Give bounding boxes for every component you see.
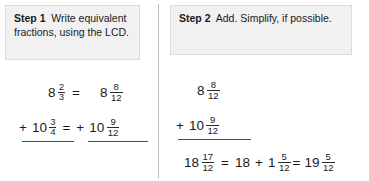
left-row-2-first-term: 10 3 4: [32, 118, 58, 138]
step-1-panel: Step 1 Write equivalent fractions, using…: [0, 0, 158, 181]
right-row-2-term: 10 9 12: [189, 115, 220, 136]
left-row-2-second-term: 10 9 12: [89, 117, 120, 138]
left-row-1-fraction: 2 3: [57, 83, 66, 103]
left-row-1: 8 2 3 = 8 8 12: [48, 82, 124, 103]
left-row-1-whole: 8: [48, 86, 56, 100]
left-row-2-plus: +: [19, 121, 27, 135]
result-equals-1: =: [221, 156, 229, 170]
result-part-whole: 18: [235, 156, 250, 170]
step-2-panel: Step 2 Add. Simplify, if possible. 8 8 1…: [158, 0, 369, 181]
right-row-2-whole: 10: [189, 119, 204, 133]
left-sum-rule-2: [88, 141, 148, 142]
right-sum-rule: [178, 139, 251, 140]
result-mixed-fraction: 5 12: [277, 152, 292, 173]
result-final-fraction: 5 12: [321, 152, 336, 173]
result-mixed-term: 1 5 12: [268, 152, 292, 173]
left-sum-rule-1: [22, 141, 74, 142]
right-row-2: + 10 9 12: [176, 115, 220, 136]
right-row-2-plus: +: [176, 119, 184, 133]
result-equals-2: =: [293, 156, 301, 170]
right-row-1-term: 8 8 12: [197, 80, 221, 101]
result-sum-fraction: 17 12: [201, 152, 216, 173]
left-row-2-fraction: 3 4: [48, 118, 57, 138]
left-row-2-result-fraction: 9 12: [106, 117, 121, 138]
left-row-1-result-whole: 8: [100, 86, 108, 100]
step-2-text: Add. Simplify, if possible.: [216, 12, 332, 24]
right-result-row: 18 17 12 = 18 + 1 5 12 = 19 5 12: [184, 152, 336, 173]
right-row-2-fraction: 9 12: [205, 115, 220, 136]
left-row-2-equals: =: [62, 121, 70, 135]
result-sum-whole: 18: [184, 156, 199, 170]
result-sum-term: 18 17 12: [184, 152, 215, 173]
step-2-label: Step 2: [179, 12, 211, 24]
left-row-1-first-term: 8 2 3: [48, 83, 66, 103]
step-1-label: Step 1: [14, 12, 46, 24]
result-mixed-whole: 1: [268, 156, 276, 170]
left-row-2-whole: 10: [32, 121, 47, 135]
result-final-term: 19 5 12: [304, 152, 335, 173]
result-final-whole: 19: [304, 156, 319, 170]
result-plus: +: [255, 156, 263, 170]
left-row-2-result-whole: 10: [89, 121, 104, 135]
left-row-2-result-plus: +: [76, 121, 84, 135]
step-1-header-box: Step 1 Write equivalent fractions, using…: [5, 5, 140, 60]
right-row-1-fraction: 8 12: [206, 80, 221, 101]
left-row-1-result-fraction: 8 12: [109, 82, 124, 103]
left-row-2: + 10 3 4 = + 10 9 12: [19, 117, 120, 138]
right-row-1-whole: 8: [197, 84, 205, 98]
right-row-1: 8 8 12: [197, 80, 221, 101]
step-2-header-box: Step 2 Add. Simplify, if possible.: [170, 5, 352, 55]
left-row-1-equals: =: [72, 86, 80, 100]
left-row-1-second-term: 8 8 12: [100, 82, 124, 103]
